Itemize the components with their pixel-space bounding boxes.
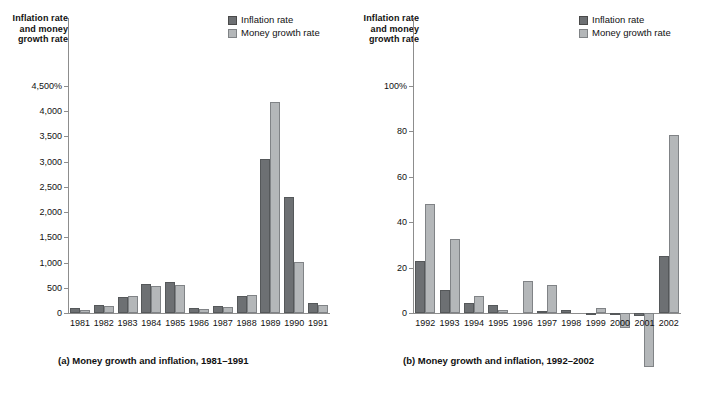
x-tick-label: 2002 bbox=[657, 318, 681, 328]
bar-1984-money bbox=[151, 286, 161, 313]
x-tick-label: 1995 bbox=[486, 318, 510, 328]
bar-1990-money bbox=[294, 262, 304, 313]
bar-1997-money bbox=[547, 285, 557, 313]
bar-1997-inflation bbox=[537, 311, 547, 313]
x-tick-label: 1982 bbox=[92, 318, 116, 328]
bar-1993-money bbox=[450, 239, 460, 313]
x-tick-label: 1999 bbox=[584, 318, 608, 328]
bar-1993-inflation bbox=[440, 290, 450, 313]
bar-1986-money bbox=[199, 309, 209, 313]
bar-2002-inflation bbox=[659, 256, 669, 313]
bar-1989-money bbox=[270, 102, 280, 313]
panel-a-bars bbox=[0, 0, 350, 400]
bar-1981-money bbox=[80, 310, 90, 313]
panel-b-bars bbox=[351, 0, 701, 400]
x-tick-label: 1997 bbox=[535, 318, 559, 328]
x-tick-label: 1983 bbox=[116, 318, 140, 328]
x-tick-label: 1991 bbox=[306, 318, 330, 328]
panel-a: Inflation rate and money growth rate Inf… bbox=[0, 0, 350, 400]
panel-a-plot: 05001,0001,5002,0002,5003,0003,5004,0004… bbox=[0, 0, 350, 400]
bar-1984-inflation bbox=[141, 284, 151, 313]
bar-1982-money bbox=[104, 306, 114, 313]
x-tick-label: 1981 bbox=[68, 318, 92, 328]
bar-1985-money bbox=[175, 285, 185, 313]
figure-root: Inflation rate and money growth rate Inf… bbox=[0, 0, 701, 400]
x-tick-label: 1996 bbox=[510, 318, 534, 328]
bar-1994-inflation bbox=[464, 303, 474, 313]
bar-1996-money bbox=[523, 281, 533, 313]
bar-1987-inflation bbox=[213, 306, 223, 313]
bar-1983-inflation bbox=[118, 297, 128, 313]
bar-2001-inflation bbox=[634, 313, 644, 316]
bar-1999-money bbox=[596, 308, 606, 313]
bar-1982-inflation bbox=[94, 305, 104, 313]
bar-1991-money bbox=[318, 305, 328, 313]
x-tick-label: 1989 bbox=[259, 318, 283, 328]
bar-1994-money bbox=[474, 296, 484, 313]
bar-1995-inflation bbox=[488, 305, 498, 313]
x-tick-label: 2001 bbox=[632, 318, 656, 328]
panel-a-caption: (a) Money growth and inflation, 1981–199… bbox=[58, 355, 249, 366]
panel-b-caption: (b) Money growth and inflation, 1992–200… bbox=[403, 355, 594, 366]
x-tick-label: 1984 bbox=[139, 318, 163, 328]
bar-1998-inflation bbox=[561, 310, 571, 313]
x-tick-label: 1990 bbox=[282, 318, 306, 328]
bar-1988-inflation bbox=[237, 296, 247, 313]
bar-1992-inflation bbox=[415, 261, 425, 313]
bar-2002-money bbox=[669, 135, 679, 313]
bar-1985-inflation bbox=[165, 282, 175, 313]
bar-1990-inflation bbox=[284, 197, 294, 313]
panel-b-plot: 020406080100% 19921993199419951996199719… bbox=[351, 0, 701, 400]
bar-1992-money bbox=[425, 204, 435, 313]
bar-1991-inflation bbox=[308, 303, 318, 313]
x-tick-label: 1992 bbox=[413, 318, 437, 328]
bar-1981-inflation bbox=[70, 308, 80, 313]
x-tick-label: 1986 bbox=[187, 318, 211, 328]
panel-b: Inflation rate and money growth rate Inf… bbox=[351, 0, 701, 400]
bar-1983-money bbox=[128, 296, 138, 313]
x-tick-label: 1998 bbox=[559, 318, 583, 328]
x-tick-label: 1993 bbox=[437, 318, 461, 328]
x-tick-label: 1985 bbox=[163, 318, 187, 328]
bar-1988-money bbox=[247, 295, 257, 313]
bar-1995-money bbox=[498, 310, 508, 313]
bar-1989-inflation bbox=[260, 159, 270, 313]
x-tick-label: 1994 bbox=[462, 318, 486, 328]
x-tick-label: 2000 bbox=[608, 318, 632, 328]
bar-1986-inflation bbox=[189, 308, 199, 313]
bar-1987-money bbox=[223, 307, 233, 313]
x-tick-label: 1987 bbox=[211, 318, 235, 328]
bar-1999-inflation bbox=[586, 313, 596, 315]
x-tick-label: 1988 bbox=[235, 318, 259, 328]
bar-2000-inflation bbox=[610, 313, 620, 315]
